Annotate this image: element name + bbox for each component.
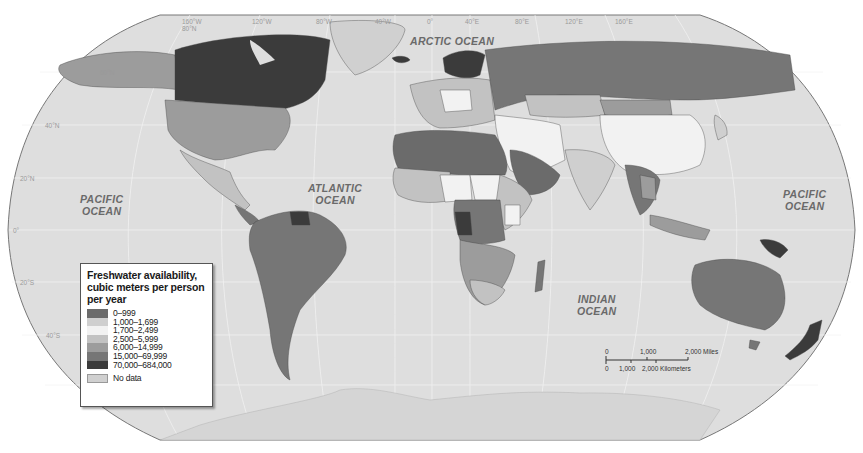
pacific-west-line2: OCEAN <box>80 205 123 217</box>
lat-label-40s: 40°S <box>46 332 60 339</box>
pacific-west-line1: PACIFIC <box>80 193 123 205</box>
label-pacific-ocean-west: PACIFIC OCEAN <box>80 193 123 217</box>
lon-label-40e: 40°E <box>465 18 479 25</box>
label-atlantic-ocean: ATLANTIC OCEAN <box>308 182 362 206</box>
lon-label-160e: 160°E <box>615 18 633 25</box>
lon-label-80w: 80°W <box>316 18 332 25</box>
arctic-ocean-text: ARCTIC OCEAN <box>410 35 494 47</box>
label-pacific-ocean-east: PACIFIC OCEAN <box>783 188 826 212</box>
scale-bar-line <box>605 356 705 364</box>
legend-item-no-data: No data <box>87 374 206 383</box>
scale-bar: 0 1,000 2,000 Miles 0 1,000 2,000 Kilome… <box>605 348 765 378</box>
scale-km-1000: 1,000 <box>619 365 635 372</box>
indian-line1: INDIAN <box>577 293 616 305</box>
legend: Freshwater availability, cubic meters pe… <box>80 263 213 407</box>
lon-label-40w: 40°W <box>375 18 391 25</box>
atlantic-line2: OCEAN <box>308 194 362 206</box>
region-scandinavia <box>443 51 485 78</box>
scale-km-2000: 2,000 Kilometers <box>642 365 691 372</box>
label-indian-ocean: INDIAN OCEAN <box>577 293 616 317</box>
region-congo-gabon <box>455 212 472 235</box>
scale-miles-0: 0 <box>605 348 609 355</box>
scale-miles-2000: 2,000 Miles <box>685 348 718 355</box>
region-kenya <box>505 205 520 225</box>
pacific-east-line2: OCEAN <box>783 200 826 212</box>
scale-km-0: 0 <box>605 365 609 372</box>
legend-swatch <box>87 309 108 318</box>
legend-classes: 0–999 1,000–1,699 1,700–2,499 2,500–5,99… <box>87 309 206 369</box>
legend-swatch-no-data <box>87 374 108 383</box>
lon-label-120e: 120°E <box>565 18 583 25</box>
lon-label-160w: 160°W <box>182 18 202 25</box>
legend-swatch <box>87 361 108 370</box>
region-mongolia <box>600 100 672 117</box>
legend-label-no-data: No data <box>113 374 141 383</box>
lat-label-20n: 20°N <box>20 175 35 182</box>
region-kazakhstan <box>525 95 605 117</box>
lat-label-60n: 60°N <box>100 69 115 76</box>
lat-label-80n: 80°N <box>182 25 197 32</box>
legend-item: 70,000–684,000 <box>87 361 206 370</box>
scale-miles-1000: 1,000 <box>640 348 656 355</box>
lat-label-20s: 20°S <box>20 279 34 286</box>
legend-swatch <box>87 318 108 327</box>
region-guyana <box>290 212 310 225</box>
region-north-africa <box>393 130 507 175</box>
legend-swatch <box>87 352 108 361</box>
atlantic-line1: ATLANTIC <box>308 182 362 194</box>
legend-title-line1: Freshwater availability, <box>87 269 206 281</box>
label-arctic-ocean: ARCTIC OCEAN <box>410 35 494 47</box>
legend-title-line2: cubic meters per person <box>87 281 206 293</box>
lat-label-equator: 0° <box>13 227 19 234</box>
legend-title-line3: per year <box>87 293 206 305</box>
legend-swatch <box>87 343 108 352</box>
legend-swatch <box>87 326 108 335</box>
lon-label-120w: 120°W <box>252 18 272 25</box>
indian-line2: OCEAN <box>577 305 616 317</box>
legend-label: 70,000–684,000 <box>113 361 172 370</box>
legend-title: Freshwater availability, cubic meters pe… <box>87 269 206 305</box>
pacific-east-line1: PACIFIC <box>783 188 826 200</box>
lon-label-0: 0° <box>427 18 433 25</box>
lon-label-80e: 80°E <box>515 18 529 25</box>
legend-swatch <box>87 335 108 344</box>
lat-label-40n: 40°N <box>45 122 60 129</box>
